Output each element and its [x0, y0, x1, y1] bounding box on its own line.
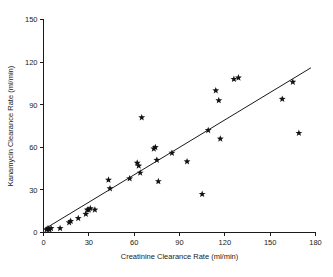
- y-axis-title: Kanamycin Clearance Rate (ml/min): [6, 65, 15, 186]
- x-tick-label: 60: [130, 238, 138, 247]
- data-point-marker: [212, 87, 219, 94]
- plot-canvas: 0306090120150 0306090120150180 Creatinin…: [0, 0, 333, 277]
- data-point-marker: [279, 95, 286, 102]
- data-point-marker: [289, 78, 296, 85]
- x-axis-title: Creatinine Clearance Rate (ml/min): [121, 252, 239, 261]
- x-axis-ticks: 0306090120150180: [41, 233, 321, 248]
- data-point-marker: [235, 74, 242, 81]
- scatter-plot-figure: 0306090120150 0306090120150180 Creatinin…: [0, 0, 333, 277]
- y-axis: 0306090120150: [25, 15, 44, 237]
- y-tick-label: 60: [29, 143, 37, 152]
- regression-line: [44, 68, 311, 230]
- data-point-marker: [217, 135, 224, 142]
- data-point-marker: [155, 178, 162, 185]
- data-point-marker: [215, 97, 222, 104]
- y-tick-label: 120: [25, 58, 38, 67]
- x-tick-label: 0: [41, 238, 45, 247]
- x-tick-label: 90: [175, 238, 183, 247]
- y-tick-label: 90: [29, 101, 37, 110]
- data-point-marker: [75, 215, 82, 222]
- data-point-marker: [57, 225, 64, 232]
- data-point-marker: [199, 191, 206, 198]
- y-tick-label: 150: [25, 15, 38, 24]
- x-tick-label: 30: [85, 238, 93, 247]
- y-tick-label: 30: [29, 186, 37, 195]
- y-tick-label: 0: [33, 228, 37, 237]
- data-point-marker: [138, 114, 145, 121]
- x-tick-label: 120: [219, 238, 232, 247]
- data-point-marker: [91, 206, 98, 213]
- data-point-marker: [230, 76, 237, 83]
- x-tick-label: 150: [264, 238, 277, 247]
- x-axis: 0306090120150180: [41, 233, 321, 248]
- y-axis-ticks: 0306090120150: [25, 15, 44, 237]
- x-tick-label: 180: [309, 238, 322, 247]
- data-point-marker: [184, 158, 191, 165]
- data-point-marker: [105, 176, 112, 183]
- data-point-marker: [295, 130, 302, 137]
- data-series-patients: [43, 74, 302, 232]
